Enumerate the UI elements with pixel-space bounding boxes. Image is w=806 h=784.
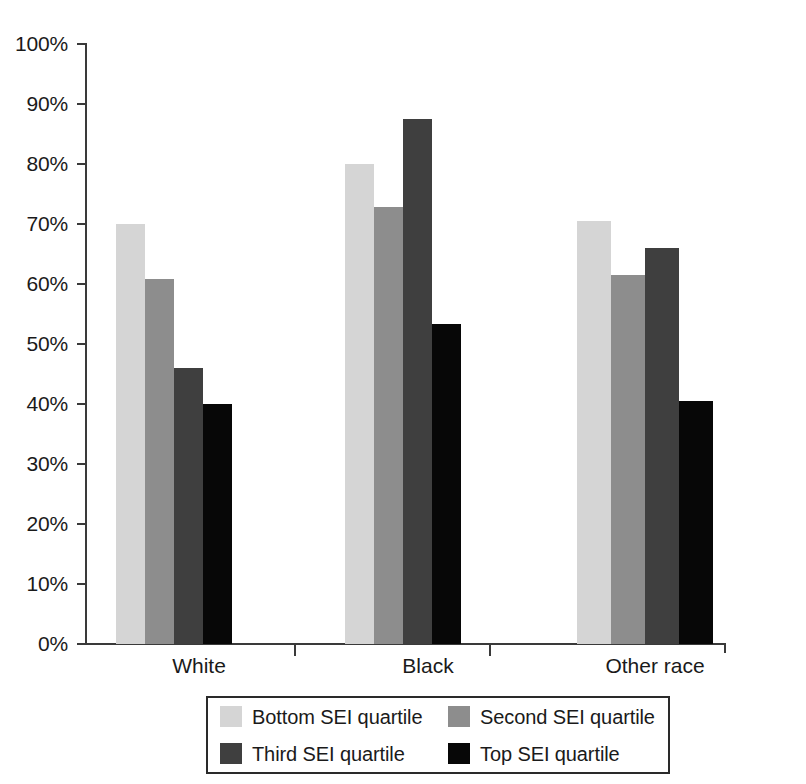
legend-item: Bottom SEI quartile [208,706,436,727]
bar [432,324,461,644]
y-axis-tick-label: 90% [0,93,68,114]
x-axis-tick [294,645,296,656]
bar [374,207,403,644]
bar [403,119,432,644]
y-axis-tick-label: 10% [0,573,68,594]
legend-label: Top SEI quartile [480,744,620,764]
y-axis-tick-label: 40% [0,393,68,414]
legend-swatch-top [448,743,470,764]
legend-item: Second SEI quartile [436,706,668,727]
y-axis-tick-label: 0% [0,633,68,654]
x-axis-category-label: Other race [565,654,745,678]
y-axis-tick-label: 100% [0,33,68,54]
legend-swatch-second [448,706,470,727]
bar [345,164,374,644]
y-axis-tick-label: 30% [0,453,68,474]
legend-label: Third SEI quartile [252,744,405,764]
y-axis-tick-label: 60% [0,273,68,294]
chart-legend: Bottom SEI quartileSecond SEI quartileTh… [206,696,670,774]
x-axis-category-label: Black [338,654,518,678]
legend-swatch-third [220,743,242,764]
bar [203,404,232,644]
y-axis-tick-label: 80% [0,153,68,174]
y-axis-tick-label: 50% [0,333,68,354]
legend-label: Bottom SEI quartile [252,707,422,727]
legend-swatch-bottom [220,706,242,727]
legend-item: Third SEI quartile [208,743,436,764]
legend-label: Second SEI quartile [480,707,655,727]
bar [145,279,174,644]
y-axis-tick-label: 20% [0,513,68,534]
legend-item: Top SEI quartile [436,743,668,764]
plot-area [85,44,725,644]
bar [611,275,645,644]
x-axis-right-cap [724,643,726,653]
bar [577,221,611,644]
bar [116,224,145,644]
y-axis-tick-label: 70% [0,213,68,234]
bar [174,368,203,644]
bar [679,401,713,644]
bar [645,248,679,644]
x-axis-category-label: White [109,654,289,678]
bar-chart: 0%10%20%30%40%50%60%70%80%90%100% WhiteB… [0,0,806,784]
